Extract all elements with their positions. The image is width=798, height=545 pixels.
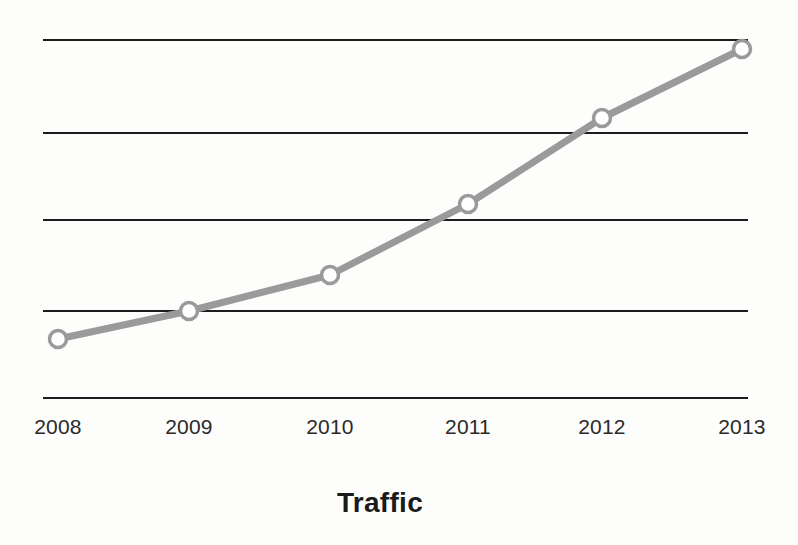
gridline bbox=[43, 397, 748, 399]
x-tick-label-2010: 2010 bbox=[306, 414, 354, 440]
traffic-markers bbox=[50, 41, 751, 348]
x-axis-labels: 200820092010201120122013 bbox=[0, 414, 798, 444]
chart-title: Traffic bbox=[0, 487, 760, 519]
data-point-marker bbox=[460, 196, 477, 213]
gridline bbox=[43, 39, 748, 41]
gridline bbox=[43, 132, 748, 134]
x-tick-label-2012: 2012 bbox=[578, 414, 626, 440]
data-point-marker bbox=[322, 267, 339, 284]
x-tick-label-2008: 2008 bbox=[34, 414, 82, 440]
traffic-series bbox=[0, 0, 798, 545]
x-tick-label-2011: 2011 bbox=[445, 414, 491, 440]
gridline bbox=[43, 310, 748, 312]
x-tick-label-2009: 2009 bbox=[165, 414, 213, 440]
x-tick-label-2013: 2013 bbox=[718, 414, 766, 440]
data-point-marker bbox=[50, 331, 67, 348]
gridline bbox=[43, 219, 748, 221]
line-chart: 200820092010201120122013 Traffic bbox=[0, 0, 798, 545]
data-point-marker bbox=[594, 110, 611, 127]
traffic-line bbox=[58, 49, 742, 339]
plot-area bbox=[0, 0, 798, 545]
data-point-marker bbox=[734, 41, 751, 58]
